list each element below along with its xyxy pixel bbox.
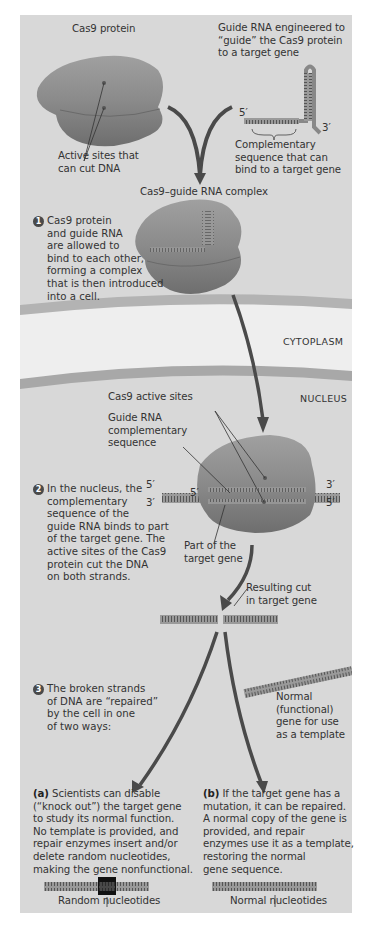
step-2-text-first: In the nucleus, the: [47, 483, 142, 494]
complex-title: Cas9–guide RNA complex: [140, 186, 268, 199]
outcome-a-text: (“knock out”) the target gene to study i…: [33, 801, 193, 877]
knockout-gene: [44, 882, 149, 891]
cas9-active-sites-label: Cas9 active sites: [108, 391, 193, 404]
merge-arrow: [168, 107, 232, 185]
step-3-text-first: The broken strands: [47, 683, 145, 694]
cytoplasm-label: CYTOPLASM: [283, 336, 343, 349]
nucleus-label: NUCLEUS: [300, 393, 347, 406]
guide-rna-label: Guide RNA engineered to “guide” the Cas9…: [218, 22, 345, 60]
dna-5prime-bottom: 5′: [326, 497, 335, 510]
step-2-text: complementary sequence of the guide RNA …: [47, 496, 169, 584]
step-3: 3The broken strands of DNA are “repaired…: [33, 683, 158, 733]
complementary-sequence-label: Complementary sequence that can bind to …: [235, 139, 341, 177]
outcome-a-text-first: Scientists can disable: [49, 788, 160, 799]
random-nucleotides-label: Random nucleotides: [58, 895, 160, 908]
guide-rna-5prime: 5′: [239, 107, 248, 120]
dna-bound-complex-shape: [162, 411, 340, 543]
repaired-gene: [212, 882, 317, 891]
step-1-text-first: Cas9 protein: [47, 215, 112, 226]
rna-5prime: 5′: [190, 487, 199, 500]
step-1: 1Cas9 protein and guide RNA are allowed …: [33, 215, 163, 303]
step-1-text: and guide RNA are allowed to bind to eac…: [47, 228, 163, 304]
step-2: 2In the nucleus, the complementary seque…: [33, 483, 169, 584]
outcome-b-text-first: If the target gene has a: [219, 788, 340, 799]
outcome-a-tag: (a): [33, 788, 49, 799]
step-1-number-icon: 1: [33, 216, 44, 227]
normal-nucleotides-label: Normal nucleotides: [230, 895, 327, 908]
outcome-a: (a) Scientists can disable: [33, 788, 160, 801]
guide-rna-shape: [244, 67, 320, 141]
resulting-cut-label: Resulting cut in target gene: [246, 582, 317, 607]
cas9-protein-shape: [37, 56, 163, 161]
figure-panel: Cas9 protein Guide RNA engineered to “gu…: [20, 15, 352, 913]
step-2-number-icon: 2: [33, 484, 44, 495]
repair-arrow: [225, 632, 262, 785]
active-sites-label: Active sites that can cut DNA: [58, 150, 139, 175]
cas9-protein-label: Cas9 protein: [72, 23, 135, 36]
step-3-text: of DNA are “repaired” by the cell in one…: [47, 696, 158, 734]
outcome-b-tag: (b): [203, 788, 219, 799]
step-3-number-icon: 3: [33, 684, 44, 695]
normal-gene-label: Normal (functional) gene for use as a te…: [276, 691, 345, 741]
cut-gene-right: [223, 615, 278, 624]
guide-rna-3prime: 3′: [322, 122, 331, 135]
dna-3prime-top: 3′: [326, 479, 335, 492]
outcome-b: (b) If the target gene has a: [203, 788, 340, 801]
part-of-target-gene-label: Part of the target gene: [184, 540, 243, 565]
cut-gene-left: [160, 615, 218, 624]
entry-arrowhead: [257, 417, 269, 433]
outcome-b-text: mutation, it can be repaired. A normal c…: [203, 801, 354, 877]
guide-rna-complementary-label: Guide RNA complementary sequence: [108, 412, 187, 450]
